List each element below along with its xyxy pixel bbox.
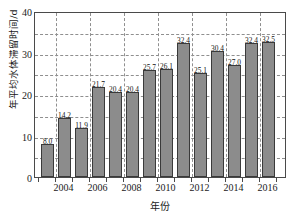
y-axis-tick-labels: 010203040 bbox=[6, 12, 32, 178]
x-tick-label: 2008 bbox=[122, 182, 142, 193]
bar-value-label: 21.7 bbox=[92, 80, 105, 89]
bar-value-label: 25.7 bbox=[143, 63, 156, 72]
x-tick-label: 2012 bbox=[190, 182, 210, 193]
bar bbox=[177, 43, 190, 177]
x-tick-label: 2016 bbox=[258, 182, 278, 193]
x-tick-label: 2010 bbox=[156, 182, 176, 193]
y-tick-label: 10 bbox=[6, 131, 32, 142]
bar bbox=[75, 128, 88, 177]
x-axis-title: 年份 bbox=[34, 198, 286, 213]
y-tick-label: 30 bbox=[6, 48, 32, 59]
bar-value-label: 32.4 bbox=[245, 36, 258, 45]
bar-value-label: 14.2 bbox=[58, 111, 71, 120]
bar bbox=[109, 92, 122, 177]
y-tick-label: 20 bbox=[6, 90, 32, 101]
x-tick-label: 2014 bbox=[224, 182, 244, 193]
bar-value-label: 20.4 bbox=[126, 85, 139, 94]
x-axis-tick-labels: 2004200620082010201220142016 bbox=[34, 182, 286, 196]
plot-area: 8.014.211.921.720.420.425.726.132.425.13… bbox=[34, 12, 286, 178]
bar bbox=[262, 42, 275, 177]
bar bbox=[160, 69, 173, 177]
bar-value-label: 32.5 bbox=[262, 35, 275, 44]
bar-value-label: 27.0 bbox=[228, 58, 241, 67]
bar bbox=[143, 70, 156, 177]
bar-value-label: 26.1 bbox=[160, 62, 173, 71]
bar-value-label: 11.9 bbox=[75, 121, 88, 130]
bar bbox=[58, 118, 71, 177]
bar-chart: 年平均水体滞留时间/d 010203040 8.014.211.921.720.… bbox=[0, 0, 293, 220]
bars-series: 8.014.211.921.720.420.425.726.132.425.13… bbox=[35, 13, 285, 177]
bar bbox=[41, 144, 54, 177]
bar bbox=[228, 65, 241, 177]
y-tick-label: 40 bbox=[6, 7, 32, 18]
bar-value-label: 30.4 bbox=[211, 44, 224, 53]
x-tick-label: 2006 bbox=[88, 182, 108, 193]
bar bbox=[92, 87, 105, 177]
y-tick-label: 0 bbox=[6, 173, 32, 184]
bar-value-label: 32.4 bbox=[177, 36, 190, 45]
bar-value-label: 25.1 bbox=[194, 66, 207, 75]
bar bbox=[211, 51, 224, 177]
bar bbox=[245, 43, 258, 177]
bar bbox=[194, 73, 207, 177]
bar-value-label: 20.4 bbox=[109, 85, 122, 94]
bar-value-label: 8.0 bbox=[43, 137, 52, 146]
x-tick-label: 2004 bbox=[54, 182, 74, 193]
bar bbox=[126, 92, 139, 177]
